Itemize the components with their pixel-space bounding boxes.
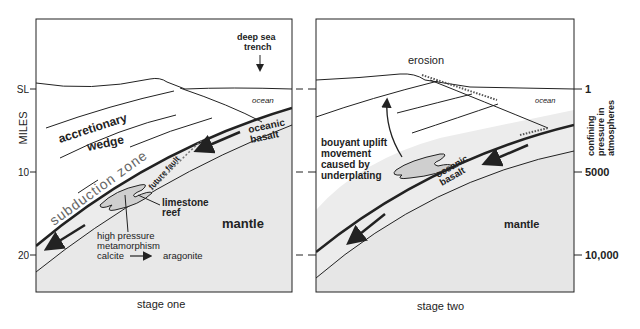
- trench-label: deep sea: [237, 32, 277, 42]
- svg-text:caused by: caused by: [321, 159, 370, 170]
- depth-axis: MILES SL 10 20: [17, 84, 36, 261]
- svg-text:aragonite: aragonite: [163, 250, 203, 261]
- mantle-label: mantle: [504, 218, 539, 230]
- svg-text:movement: movement: [321, 148, 372, 159]
- surface-line: [36, 78, 292, 89]
- tick-1: 1: [585, 83, 591, 95]
- panel-connectors: [296, 89, 316, 255]
- tick-5000: 5000: [585, 166, 609, 178]
- tick-sl: SL: [17, 84, 30, 95]
- tick-10000: 10,000: [585, 249, 619, 261]
- stage-two-caption: stage two: [417, 300, 464, 312]
- wedge-front-line: [180, 88, 262, 122]
- svg-text:underplating: underplating: [321, 170, 382, 181]
- svg-text:calcite: calcite: [97, 250, 124, 261]
- stage-one-panel: deep sea trench ocean accretionary wedge…: [36, 19, 292, 310]
- pressure-axis-title: confining: [586, 116, 596, 157]
- stage-one-caption: stage one: [137, 298, 185, 310]
- pressure-axis: 1 5000 10,000 confining pressure in atmo…: [574, 83, 619, 261]
- subduction-diagram: deep sea trench ocean accretionary wedge…: [0, 0, 640, 329]
- uplift-arrow: [387, 100, 402, 157]
- tick-20: 20: [18, 250, 30, 261]
- erosion-label: erosion: [408, 54, 444, 66]
- uplift-label: bouyant uplift: [321, 137, 388, 148]
- svg-text:trench: trench: [244, 42, 272, 52]
- stage-two-panel: erosion ocean bouyant uplift movement ca…: [316, 19, 574, 312]
- tick-10: 10: [18, 167, 30, 178]
- surface-line: [316, 74, 574, 89]
- miles-axis-title: MILES: [17, 111, 29, 144]
- svg-text:reef: reef: [162, 207, 181, 218]
- ocean-label: ocean: [535, 96, 555, 105]
- mantle-label: mantle: [222, 216, 264, 231]
- ocean-label: ocean: [252, 96, 274, 105]
- svg-text:pressure in: pressure in: [596, 107, 606, 156]
- svg-text:atmospheres: atmospheres: [606, 100, 616, 156]
